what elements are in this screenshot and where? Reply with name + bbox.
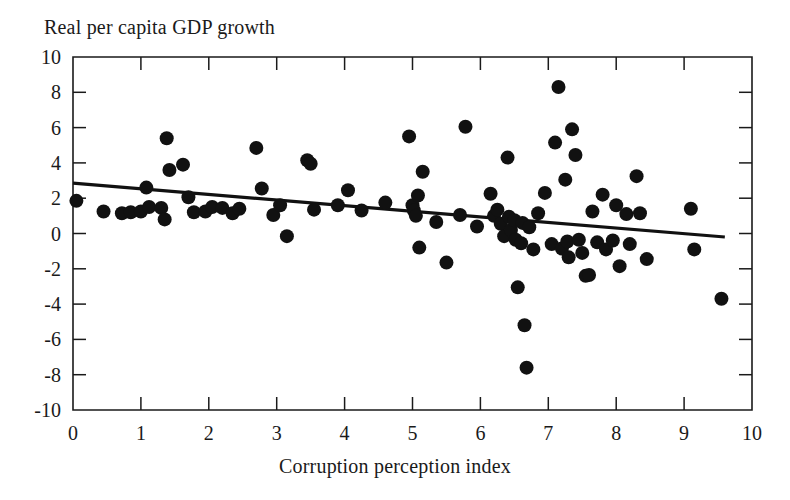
data-point bbox=[714, 292, 728, 306]
y-tick-label: 2 bbox=[51, 187, 61, 209]
data-point bbox=[331, 198, 345, 212]
x-tick-label: 6 bbox=[475, 422, 485, 444]
data-point bbox=[273, 198, 287, 212]
y-tick-label: 6 bbox=[51, 117, 61, 139]
y-tick-label: -2 bbox=[44, 258, 61, 280]
data-point bbox=[551, 80, 565, 94]
data-point bbox=[181, 190, 195, 204]
data-point bbox=[501, 151, 515, 165]
data-point bbox=[575, 246, 589, 260]
y-tick-label: -6 bbox=[44, 328, 61, 350]
data-point bbox=[341, 183, 355, 197]
data-point bbox=[548, 136, 562, 150]
x-tick-label: 2 bbox=[204, 422, 214, 444]
x-tick-label: 3 bbox=[272, 422, 282, 444]
data-point bbox=[619, 207, 633, 221]
data-point bbox=[526, 242, 540, 256]
y-tick-label: 0 bbox=[51, 223, 61, 245]
data-point bbox=[249, 141, 263, 155]
data-point bbox=[160, 131, 174, 145]
data-point bbox=[565, 122, 579, 136]
data-point bbox=[633, 206, 647, 220]
data-point bbox=[176, 158, 190, 172]
data-point bbox=[439, 256, 453, 270]
y-tick-label: 4 bbox=[51, 152, 61, 174]
data-point bbox=[416, 165, 430, 179]
data-point bbox=[162, 163, 176, 177]
data-point bbox=[429, 215, 443, 229]
data-point bbox=[562, 250, 576, 264]
data-point bbox=[596, 188, 610, 202]
x-tick-label: 5 bbox=[408, 422, 418, 444]
data-point bbox=[572, 233, 586, 247]
x-tick-label: 4 bbox=[340, 422, 350, 444]
data-point bbox=[280, 229, 294, 243]
data-point bbox=[531, 206, 545, 220]
plot-frame bbox=[73, 57, 752, 410]
x-tick-label: 9 bbox=[679, 422, 689, 444]
data-point bbox=[378, 196, 392, 210]
data-point bbox=[139, 181, 153, 195]
data-points-group bbox=[69, 80, 728, 375]
y-tick-label: -8 bbox=[44, 364, 61, 386]
x-tick-label: 8 bbox=[611, 422, 621, 444]
data-point bbox=[518, 318, 532, 332]
data-point bbox=[307, 203, 321, 217]
data-point bbox=[687, 242, 701, 256]
y-tick-label: -10 bbox=[34, 399, 61, 421]
data-point bbox=[412, 241, 426, 255]
x-tick-label: 7 bbox=[543, 422, 553, 444]
y-tick-label: 10 bbox=[41, 46, 61, 68]
chart-canvas: -10-8-6-4-20246810 012345678910 bbox=[0, 0, 790, 500]
x-tick-label: 1 bbox=[136, 422, 146, 444]
ticks-group bbox=[73, 57, 752, 410]
data-point bbox=[522, 220, 536, 234]
data-point bbox=[585, 204, 599, 218]
scatter-plot-figure: Real per capita GDP growth -10-8-6-4-202… bbox=[0, 0, 790, 500]
data-point bbox=[232, 202, 246, 216]
data-point bbox=[484, 187, 498, 201]
data-point bbox=[640, 252, 654, 266]
x-axis-title: Corruption perception index bbox=[0, 455, 790, 478]
data-point bbox=[538, 186, 552, 200]
data-point bbox=[402, 129, 416, 143]
data-point bbox=[158, 212, 172, 226]
data-point bbox=[355, 204, 369, 218]
y-tick-label: -4 bbox=[44, 293, 61, 315]
data-point bbox=[409, 209, 423, 223]
data-point bbox=[453, 208, 467, 222]
data-point bbox=[630, 169, 644, 183]
data-point bbox=[69, 194, 83, 208]
x-axis-tick-labels: 012345678910 bbox=[68, 422, 762, 444]
axes-group bbox=[73, 57, 752, 410]
data-point bbox=[558, 173, 572, 187]
data-point bbox=[470, 219, 484, 233]
data-point bbox=[606, 234, 620, 248]
x-tick-label: 0 bbox=[68, 422, 78, 444]
data-point bbox=[613, 259, 627, 273]
data-point bbox=[411, 189, 425, 203]
data-point bbox=[568, 148, 582, 162]
data-point bbox=[142, 200, 156, 214]
data-point bbox=[97, 204, 111, 218]
data-point bbox=[514, 236, 528, 250]
data-point bbox=[684, 202, 698, 216]
data-point bbox=[255, 181, 269, 195]
y-axis-tick-labels: -10-8-6-4-20246810 bbox=[34, 46, 61, 421]
data-point bbox=[582, 268, 596, 282]
y-tick-label: 8 bbox=[51, 81, 61, 103]
data-point bbox=[304, 157, 318, 171]
x-tick-label: 10 bbox=[742, 422, 762, 444]
data-point bbox=[458, 120, 472, 134]
data-point bbox=[511, 280, 525, 294]
data-point bbox=[623, 237, 637, 251]
data-point bbox=[520, 361, 534, 375]
